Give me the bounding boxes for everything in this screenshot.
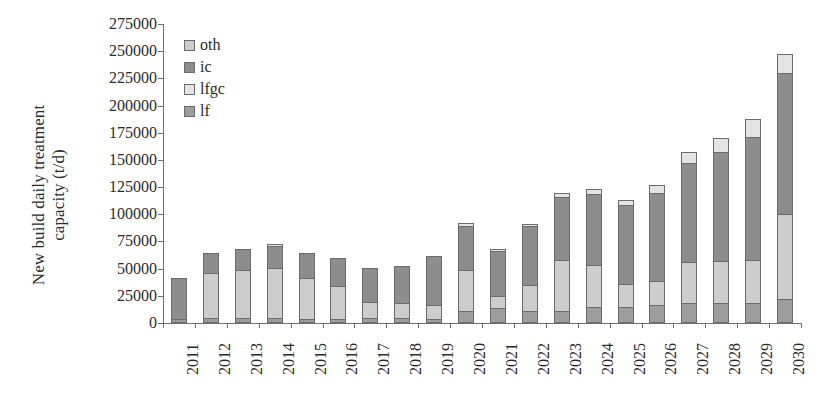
- bar-2012[interactable]: [203, 253, 219, 323]
- bar-segment-oth: [491, 297, 505, 310]
- bar-segment-lf: [778, 300, 792, 322]
- x-axis-tick-mark: [482, 323, 483, 328]
- x-axis-label-2023: 2023: [568, 343, 584, 375]
- bar-2023[interactable]: [554, 193, 570, 323]
- bar-2026[interactable]: [649, 185, 665, 323]
- x-axis-label-2014: 2014: [281, 343, 297, 375]
- bar-segment-lf: [650, 306, 664, 322]
- bar-segment-lf: [395, 319, 409, 322]
- bar-2016[interactable]: [330, 258, 346, 323]
- bar-segment-lf: [523, 312, 537, 322]
- x-axis-tick-mark: [259, 323, 260, 328]
- y-axis-tick-label: 100000: [109, 206, 157, 222]
- bar-segment-lf: [682, 304, 696, 322]
- x-axis-tick-mark: [642, 323, 643, 328]
- bar-segment-lfgc: [714, 139, 728, 153]
- bar-segment-lf: [746, 304, 760, 322]
- x-axis-label-2028: 2028: [727, 343, 743, 375]
- bar-segment-oth: [523, 286, 537, 313]
- bar-2028[interactable]: [713, 138, 729, 323]
- bar-2019[interactable]: [426, 256, 442, 323]
- bar-segment-lf: [619, 308, 633, 322]
- x-axis-label-2021: 2021: [504, 343, 520, 375]
- chart-legend: othiclfgclf: [184, 34, 225, 122]
- bar-2021[interactable]: [490, 249, 506, 323]
- x-axis-tick-mark: [418, 323, 419, 328]
- bar-segment-lf: [236, 319, 250, 322]
- x-axis-tick-mark: [163, 323, 164, 328]
- bar-segment-lf: [714, 304, 728, 322]
- bar-segment-lf: [459, 312, 473, 322]
- bar-segment-ic: [172, 279, 186, 320]
- bar-segment-oth: [682, 263, 696, 304]
- y-axis-tick-label: 75000: [117, 233, 157, 249]
- bar-2029[interactable]: [745, 119, 761, 323]
- bar-segment-oth: [331, 287, 345, 320]
- bar-segment-oth: [427, 306, 441, 320]
- x-axis-tick-mark: [195, 323, 196, 328]
- bar-2014[interactable]: [267, 244, 283, 323]
- x-axis-tick-mark: [769, 323, 770, 328]
- legend-item-lf[interactable]: lf: [184, 100, 225, 122]
- bar-2022[interactable]: [522, 224, 538, 323]
- bar-segment-lf: [331, 320, 345, 322]
- plot-area: [163, 24, 801, 323]
- x-axis-label-2013: 2013: [249, 343, 265, 375]
- bar-segment-lf: [587, 308, 601, 322]
- x-axis-label-2017: 2017: [376, 343, 392, 375]
- bar-segment-ic: [363, 269, 377, 304]
- bar-segment-oth: [268, 269, 282, 319]
- bar-segment-lfgc: [650, 186, 664, 195]
- bar-segment-lf: [172, 320, 186, 322]
- bar-segment-ic: [236, 250, 250, 271]
- y-axis-tick-label: 225000: [109, 70, 157, 86]
- bar-segment-ic: [587, 195, 601, 267]
- bar-segment-oth: [746, 261, 760, 304]
- legend-item-lfgc[interactable]: lfgc: [184, 78, 225, 100]
- y-axis-tick-label: 175000: [109, 125, 157, 141]
- bar-segment-oth: [459, 271, 473, 313]
- legend-label: ic: [200, 59, 212, 75]
- bar-segment-lf: [268, 319, 282, 322]
- x-axis-label-2011: 2011: [185, 344, 201, 375]
- x-axis-tick-mark: [291, 323, 292, 328]
- x-axis-tick-mark: [450, 323, 451, 328]
- x-axis-tick-mark: [386, 323, 387, 328]
- bar-2020[interactable]: [458, 223, 474, 323]
- bar-segment-lf: [555, 312, 569, 322]
- x-axis-tick-mark: [323, 323, 324, 328]
- x-axis-label-2029: 2029: [759, 343, 775, 375]
- y-axis-tick-label: 250000: [109, 43, 157, 59]
- bar-segment-ic: [459, 227, 473, 271]
- bar-2025[interactable]: [618, 200, 634, 323]
- x-axis-label-2019: 2019: [440, 343, 456, 375]
- bar-segment-oth: [778, 215, 792, 300]
- y-axis-tick-label: 25000: [117, 288, 157, 304]
- bar-segment-ic: [300, 254, 314, 278]
- legend-swatch-icon: [184, 62, 195, 73]
- bar-2018[interactable]: [394, 266, 410, 323]
- bar-2017[interactable]: [362, 268, 378, 323]
- x-axis-label-2018: 2018: [408, 343, 424, 375]
- bar-2011[interactable]: [171, 278, 187, 323]
- y-axis-title: New build daily treatment capacity (t/d): [29, 50, 69, 340]
- legend-label: oth: [200, 37, 220, 53]
- bar-segment-oth: [395, 304, 409, 319]
- legend-item-oth[interactable]: oth: [184, 34, 225, 56]
- bar-segment-ic: [395, 267, 409, 304]
- legend-item-ic[interactable]: ic: [184, 56, 225, 78]
- bar-segment-ic: [682, 164, 696, 263]
- x-axis-label-2020: 2020: [472, 343, 488, 375]
- x-axis-label-2025: 2025: [632, 343, 648, 375]
- bar-2027[interactable]: [681, 152, 697, 323]
- bar-2030[interactable]: [777, 54, 793, 323]
- x-axis-label-2030: 2030: [791, 343, 807, 375]
- bar-segment-lf: [491, 309, 505, 322]
- legend-label: lfgc: [200, 81, 225, 97]
- bar-2015[interactable]: [299, 253, 315, 323]
- x-axis-label-2015: 2015: [313, 343, 329, 375]
- bar-2024[interactable]: [586, 189, 602, 323]
- bar-segment-ic: [746, 138, 760, 261]
- bar-2013[interactable]: [235, 249, 251, 323]
- bar-segment-oth: [236, 271, 250, 319]
